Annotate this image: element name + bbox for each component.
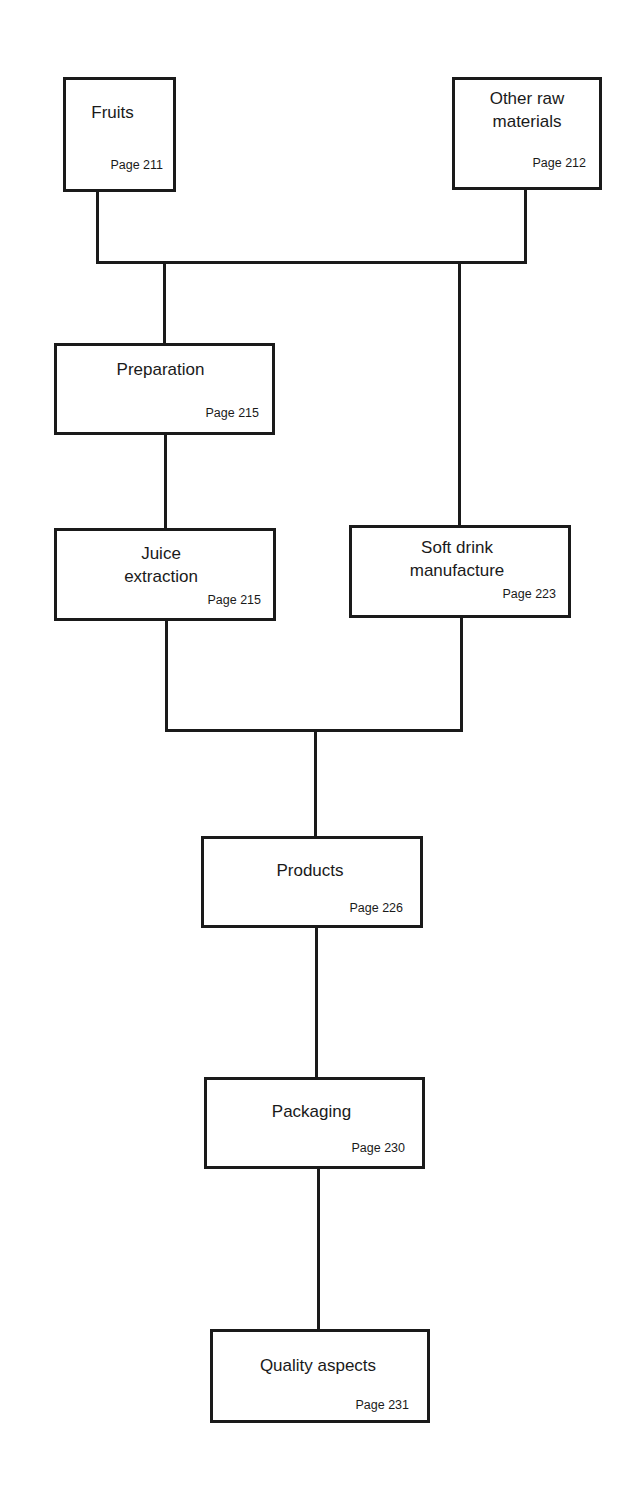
node-title: Fruits [66,101,159,124]
node-title: Soft drink manufacture [352,536,562,582]
node-juice-extraction: Juice extraction Page 215 [54,528,276,621]
connector-products-to-packaging [315,926,318,1078]
node-page-ref: Page 215 [205,406,259,420]
node-page-ref: Page 231 [355,1398,409,1412]
node-fruits: Fruits Page 211 [63,77,176,192]
node-title: Juice extraction [57,542,265,588]
node-packaging: Packaging Page 230 [204,1077,425,1169]
node-quality-aspects: Quality aspects Page 231 [210,1329,430,1423]
node-preparation: Preparation Page 215 [54,343,275,435]
node-title: Other raw materials [455,87,599,133]
node-soft-drink-manufacture: Soft drink manufacture Page 223 [349,525,571,618]
node-title: Quality aspects [213,1354,423,1377]
connector-packaging-to-quality [317,1167,320,1330]
node-page-ref: Page 226 [349,901,403,915]
node-title: Preparation [57,358,264,381]
connector-to-preparation [163,261,166,344]
node-page-ref: Page 215 [207,593,261,607]
node-page-ref: Page 223 [502,587,556,601]
connector-to-products [314,729,317,837]
connector-to-soft-drink [458,261,461,526]
connector-soft-drink-down [460,616,463,732]
node-page-ref: Page 230 [351,1141,405,1155]
node-page-ref: Page 212 [532,156,586,170]
node-page-ref: Page 211 [110,158,163,172]
connector-top-merge [96,261,527,264]
connector-preparation-to-juice [164,433,167,529]
node-other-raw-materials: Other raw materials Page 212 [452,77,602,190]
connector-other-raw-materials-down [524,188,527,264]
connector-fruits-down [96,190,99,264]
connector-juice-down [165,619,168,732]
node-products: Products Page 226 [201,836,423,928]
node-title: Packaging [207,1100,416,1123]
node-title: Products [204,859,416,882]
